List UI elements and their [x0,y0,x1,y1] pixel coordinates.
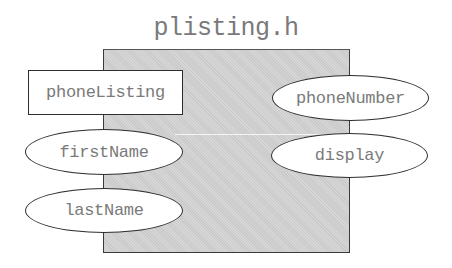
member-oval-phonenumber: phoneNumber [272,75,429,121]
member-label: firstName [59,143,148,162]
member-oval-display: display [271,133,428,178]
member-label: lastName [64,201,143,220]
header-file-title: plisting.h [150,13,302,45]
member-oval-firstname: firstName [25,129,183,175]
class-name-box: phoneListing [28,70,183,115]
member-label: phoneNumber [296,89,405,108]
header-file-diagram: plisting.h phoneListing firstName lastNa… [0,0,452,268]
member-oval-lastname: lastName [25,188,183,233]
class-name-label: phoneListing [46,83,165,102]
member-label: display [315,146,384,165]
